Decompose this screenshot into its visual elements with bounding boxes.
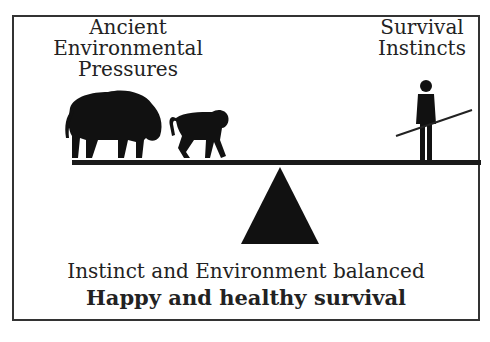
baboon-icon: [169, 110, 228, 158]
outcome-caption: Happy and healthy survival: [12, 285, 480, 310]
human-with-spear-icon: [396, 80, 472, 160]
balance-caption: Instinct and Environment balanced: [12, 259, 480, 283]
triangle-fulcrum: [241, 167, 319, 244]
balance-beam: [72, 160, 481, 165]
bison-icon: [65, 91, 161, 159]
